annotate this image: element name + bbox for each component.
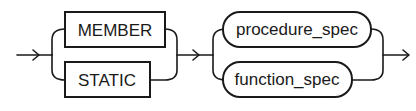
function-spec-label: function_spec [235, 70, 340, 89]
connector-line [177, 50, 213, 60]
procedure-spec-label: procedure_spec [236, 20, 358, 39]
nonterminal-procedure-spec: procedure_spec [223, 12, 371, 47]
keyword-static: STATIC [65, 62, 150, 97]
syntax-diagram: MEMBER STATIC procedure_spec function_sp… [0, 0, 416, 111]
exit-line [383, 50, 409, 60]
fork-left-1 [52, 29, 65, 80]
keyword-member: MEMBER [65, 12, 165, 47]
keyword-member-label: MEMBER [78, 21, 153, 40]
nonterminal-function-spec: function_spec [223, 62, 352, 97]
entry-line [17, 50, 52, 60]
keyword-static-label: STATIC [78, 71, 136, 90]
